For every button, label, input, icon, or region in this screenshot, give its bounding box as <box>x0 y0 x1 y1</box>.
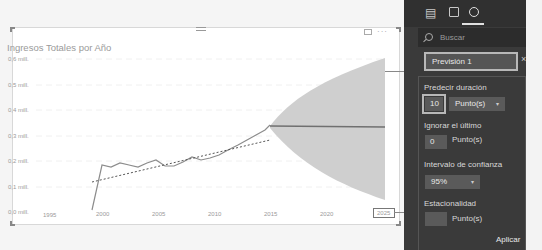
x-tick: 1995 <box>43 212 56 218</box>
active-tab-indicator <box>462 23 484 25</box>
seasonality-label: Estacionalidad <box>424 199 476 208</box>
fields-icon: ▤ <box>425 6 436 20</box>
tab-fields[interactable]: ▤ <box>422 6 438 20</box>
paint-roller-icon <box>449 7 459 17</box>
forecast-unit-value: Punto(s) <box>455 99 485 108</box>
search-icon <box>425 33 433 41</box>
forecast-length-label: Predecir duración <box>424 83 487 92</box>
chart-plot <box>0 0 406 250</box>
search-placeholder: Buscar <box>440 33 465 42</box>
analytics-pane: ▤ Buscar Previsión 1 × Predecir duración… <box>404 0 526 250</box>
tab-format[interactable] <box>446 6 462 20</box>
x-tick: 2000 <box>96 211 109 217</box>
confidence-dropdown[interactable]: 95% ▾ <box>425 175 480 189</box>
x-tick: 2020 <box>320 211 333 217</box>
ignore-last-label: Ignorar el último <box>424 121 481 130</box>
report-canvas: ··· Ingresos Totales por Año 0,6 mill. 0… <box>0 0 406 250</box>
chevron-down-icon: ▾ <box>471 175 474 189</box>
forecast-settings-section: Predecir duración 10 Punto(s) ▾ Ignorar … <box>418 76 526 250</box>
ignore-last-input[interactable]: 0 <box>425 135 447 149</box>
confidence-label: Intervalo de confianza <box>424 160 502 169</box>
forecast-length-input[interactable]: 10 <box>425 97 443 111</box>
tab-analytics[interactable] <box>466 6 482 20</box>
seasonality-unit: Punto(s) <box>452 214 482 223</box>
apply-button[interactable]: Aplicar <box>496 235 520 244</box>
x-tick: 2010 <box>208 211 221 217</box>
forecast-name-field[interactable]: Previsión 1 <box>424 52 518 71</box>
confidence-band <box>270 58 385 200</box>
seasonality-input[interactable] <box>425 212 447 226</box>
search-input[interactable]: Buscar <box>418 28 528 47</box>
background <box>526 0 542 250</box>
x-tick: 2005 <box>152 211 165 217</box>
confidence-value: 95% <box>431 177 447 186</box>
chevron-down-icon: ▾ <box>496 97 499 111</box>
analytics-icon <box>469 7 479 17</box>
ignore-last-unit: Punto(s) <box>452 135 482 144</box>
forecast-unit-dropdown[interactable]: Punto(s) ▾ <box>449 97 505 111</box>
pane-tabs: ▤ <box>404 0 526 27</box>
actual-line <box>92 125 270 210</box>
x-tick: 2015 <box>264 211 277 217</box>
callout-connector <box>385 71 406 72</box>
x-tick-highlighted: 2025 <box>377 210 390 216</box>
